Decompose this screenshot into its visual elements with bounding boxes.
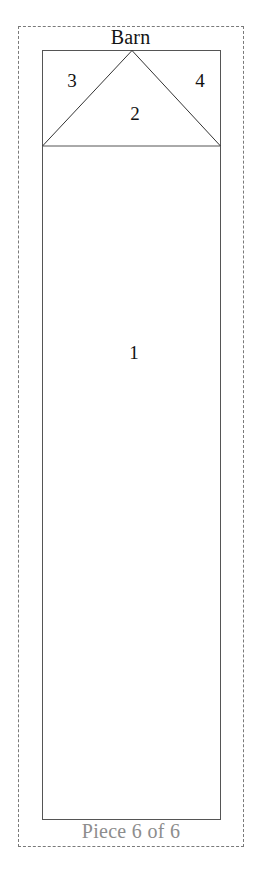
part-label-3: 3 (67, 71, 77, 90)
part-label-2: 2 (130, 104, 140, 123)
page-title: Barn (0, 26, 261, 48)
piece-cut-bounds (18, 26, 244, 847)
piece-caption: Piece 6 of 6 (18, 818, 244, 844)
part-label-1: 1 (129, 343, 139, 362)
part-label-4: 4 (195, 71, 205, 90)
